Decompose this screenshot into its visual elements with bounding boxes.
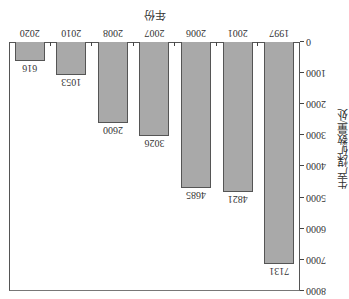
y-tick [300, 41, 304, 42]
x-tick-label: 2007 [135, 28, 175, 39]
y-tick-label: 6000 [306, 224, 342, 235]
x-axis-label: 年份 [125, 8, 185, 24]
y-tick-label: 3000 [306, 130, 342, 141]
bar-2001 [223, 42, 253, 192]
bar-2007 [140, 42, 170, 136]
x-tick-label: 1997 [259, 28, 299, 39]
y-tick [300, 228, 304, 229]
x-tick-label: 2006 [176, 28, 216, 39]
y-tick-label: 5000 [306, 193, 342, 204]
y-tick [300, 197, 304, 198]
bar-value-label: 1053 [51, 77, 91, 88]
x-tick [133, 42, 134, 46]
x-tick-label: 2020 [10, 28, 50, 39]
bar-value-label: 4821 [218, 194, 258, 205]
x-tick [91, 42, 92, 46]
y-tick [300, 72, 304, 73]
y-tick-label: 7000 [306, 255, 342, 266]
y-tick-label: 8000 [306, 286, 342, 297]
x-tick [174, 42, 175, 46]
x-tick-label: 2010 [51, 28, 91, 39]
chart-stage: 生产煤矿数量/处 0100020003000400050006000700080… [0, 0, 349, 299]
y-tick-label: 2000 [306, 99, 342, 110]
bar-2006 [181, 42, 211, 188]
x-tick [257, 42, 258, 46]
y-axis-label: 生产煤矿数量/处 [335, 109, 349, 189]
bar-2010 [56, 42, 86, 75]
y-tick-label: 1000 [306, 68, 342, 79]
y-tick [300, 166, 304, 167]
y-tick [300, 103, 304, 104]
bar-value-label: 2600 [93, 125, 133, 136]
x-tick [216, 42, 217, 46]
y-tick [300, 259, 304, 260]
bar-value-label: 616 [10, 63, 50, 74]
x-tick-label: 2008 [93, 28, 133, 39]
y-tick-label: 4000 [306, 162, 342, 173]
bar-1997 [264, 42, 294, 264]
y-tick [300, 134, 304, 135]
x-tick [50, 42, 51, 46]
y-tick-label: 0 [306, 37, 342, 48]
bar-2020 [15, 42, 45, 61]
bar-value-label: 4685 [176, 190, 216, 201]
bar-value-label: 3026 [135, 138, 175, 149]
y-tick [300, 290, 304, 291]
bar-value-label: 7131 [259, 266, 299, 277]
x-tick-label: 2001 [218, 28, 258, 39]
bar-2008 [98, 42, 128, 123]
